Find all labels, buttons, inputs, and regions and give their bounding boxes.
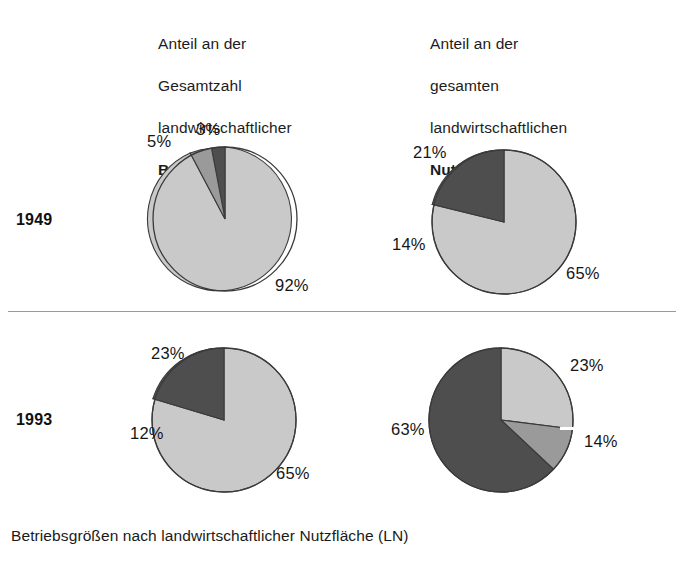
pie-chart-1993-nutzflaeche (426, 345, 576, 495)
header-nutzflaeche-line1: Anteil an der (430, 33, 567, 54)
row-label-1949: 1949 (16, 211, 52, 229)
pie-chart-1949-betriebe (150, 144, 300, 294)
pie-slice-light-23 (501, 348, 573, 429)
pie-label-1993-betriebe-12: 12% (130, 424, 164, 443)
header-nutzflaeche-line3: landwirtschaftlichen (430, 117, 567, 138)
header-betriebe-line1: Anteil an der (158, 33, 292, 54)
header-betriebe-line3: landwirtschaftlicher (158, 117, 292, 138)
pie-label-1949-nutzflaeche-65: 65% (566, 264, 600, 283)
pie-label-1993-nutzflaeche-63: 63% (391, 420, 425, 439)
pie-label-1993-betriebe-65: 65% (276, 464, 310, 483)
pie-label-1993-betriebe-23: 23% (151, 344, 185, 363)
pie-label-1949-betriebe-5: 5% (147, 132, 171, 151)
pie-label-1949-nutzflaeche-14: 14% (392, 235, 426, 254)
header-nutzflaeche-line2: gesamten (430, 75, 567, 96)
pie-label-1993-nutzflaeche-23: 23% (570, 356, 604, 375)
pie-label-1949-betriebe-92: 92% (275, 276, 309, 295)
row-divider (8, 311, 676, 312)
pie-label-1949-nutzflaeche-21: 21% (413, 143, 447, 162)
pie-chart-1949-nutzflaeche (429, 147, 579, 297)
figure-caption: Betriebsgrößen nach landwirtschaftlicher… (11, 527, 409, 545)
pie-label-1949-betriebe-3: 3% (196, 120, 220, 139)
label-leader-line-1993-nutzflaeche-14 (560, 427, 579, 430)
pie-chart-figure: Anteil an der Gesamtzahl landwirtschaftl… (0, 0, 684, 571)
header-betriebe-line2: Gesamtzahl (158, 75, 292, 96)
pie-label-1993-nutzflaeche-14: 14% (584, 432, 618, 451)
row-label-1993: 1993 (16, 411, 52, 429)
